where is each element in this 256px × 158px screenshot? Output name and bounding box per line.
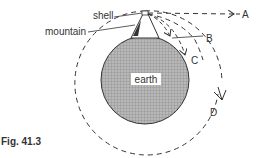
shell-marker (142, 11, 148, 15)
earth-label: earth (135, 74, 158, 85)
label-c: C (191, 55, 198, 66)
mountain-leader (88, 25, 135, 32)
trajectory-a (148, 13, 234, 14)
shell-leader (114, 13, 142, 17)
mountain-label: mountain (45, 26, 86, 37)
newtons-cannon-diagram: earth shell mountain A B C D Fig. 41.3 (0, 0, 256, 158)
figure-caption: Fig. 41.3 (1, 136, 41, 147)
shell-label: shell (93, 10, 114, 21)
orbit-d-arrow-icon (214, 87, 226, 100)
label-b: B (206, 33, 213, 44)
label-d: D (210, 107, 217, 118)
label-a: A (242, 9, 249, 20)
